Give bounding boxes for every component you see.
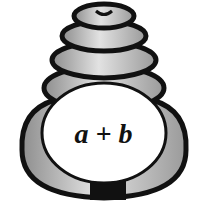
core-label: a + b xyxy=(0,118,207,150)
beehive-illustration xyxy=(0,0,207,208)
